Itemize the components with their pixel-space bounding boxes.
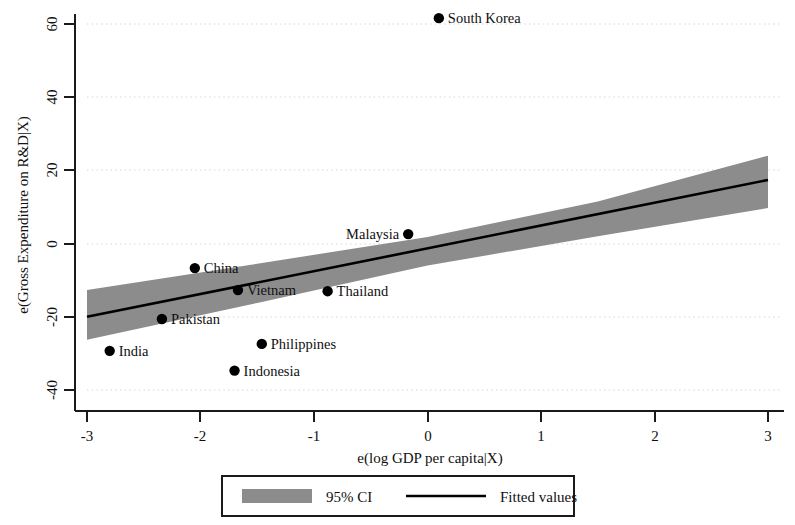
x-tick-label-minus3: -3	[81, 428, 94, 444]
point-label: Philippines	[271, 336, 337, 352]
point-marker	[434, 13, 444, 23]
y-tick-label-0: 0	[44, 240, 60, 248]
x-tick-label-2: 2	[651, 428, 659, 444]
y-tick-label-40: 40	[44, 90, 60, 105]
point-label: India	[119, 343, 149, 359]
x-tick-label-1: 1	[537, 428, 545, 444]
x-tick-label-minus2: -2	[194, 428, 207, 444]
regression-scatter-figure: South KoreaMalaysiaChinaVietnamThailandP…	[0, 0, 795, 525]
y-tick-label-minus20: -20	[44, 307, 60, 327]
x-axis-title: e(log GDP per capita|X)	[357, 450, 502, 467]
point-marker	[105, 346, 115, 356]
point-label: Thailand	[337, 283, 389, 299]
point-label: Malaysia	[346, 226, 400, 242]
y-tick-label-20: 20	[44, 163, 60, 178]
point-marker	[190, 263, 200, 273]
point-label: China	[204, 260, 239, 276]
point-marker	[257, 339, 267, 349]
point-label: South Korea	[448, 10, 521, 26]
point-label: Pakistan	[171, 311, 221, 327]
point-label: Indonesia	[244, 363, 301, 379]
y-tick-label-minus40: -40	[44, 380, 60, 400]
y-axis-title: e(Gross Expenditure on R&D|X)	[15, 116, 32, 314]
x-tick-label-0: 0	[424, 428, 432, 444]
legend-ci-swatch	[242, 489, 312, 503]
point-marker	[233, 285, 243, 295]
point-marker	[403, 229, 413, 239]
x-tick-label-3: 3	[764, 428, 772, 444]
point-marker	[229, 365, 239, 375]
legend-ci-label: 95% CI	[326, 489, 372, 505]
chart-canvas: South KoreaMalaysiaChinaVietnamThailandP…	[0, 0, 795, 525]
y-tick-label-60: 60	[44, 17, 60, 32]
legend: 95% CI Fitted values	[222, 476, 577, 516]
point-marker	[157, 314, 167, 324]
legend-fitted-label: Fitted values	[500, 489, 577, 505]
point-label: Vietnam	[247, 282, 297, 298]
point-marker	[322, 286, 332, 296]
x-tick-label-minus1: -1	[308, 428, 321, 444]
